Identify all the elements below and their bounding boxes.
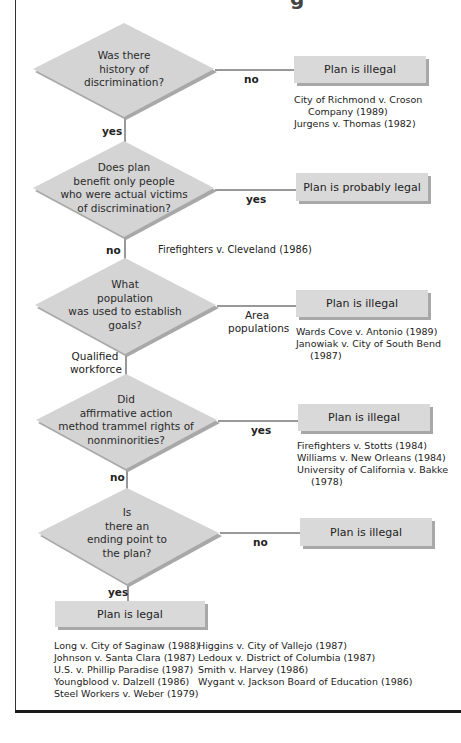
branch-label-q2-down: no — [106, 244, 121, 256]
case-citation: Janowiak v. City of South Bend — [296, 338, 441, 350]
branch-label-line: populations — [228, 322, 286, 335]
result-box-q2: Plan is probably legal — [296, 173, 428, 201]
case-citation: Firefighters v. Stotts (1984) — [297, 440, 448, 452]
decision-q2-text: Does plan benefit only people who were a… — [54, 161, 194, 215]
branch-label-line: Qualified — [70, 350, 120, 363]
decision-q5-text: Is there an ending point to the plan? — [67, 506, 187, 560]
branch-label-line: workforce — [70, 363, 120, 376]
decision-line: method trammel rights of — [56, 420, 196, 434]
result-box-q3: Plan is illegal — [296, 290, 428, 317]
decision-line: benefit only people — [54, 175, 194, 189]
branch-label-q3-down: Qualified workforce — [70, 350, 120, 376]
decision-line: the plan? — [67, 547, 187, 561]
branch-label-q2-right: yes — [246, 193, 266, 205]
case-list-q1: City of Richmond v. Croson Company (1989… — [294, 94, 422, 130]
branch-label-q1-right: no — [244, 73, 259, 85]
branch-label-q5-down: yes — [108, 586, 128, 598]
case-citation: U.S. v. Phillip Paradise (1987) — [54, 664, 200, 676]
decision-line: was used to establish — [65, 305, 185, 319]
decision-line: What — [65, 278, 185, 292]
case-citation: Wygant v. Jackson Board of Education (19… — [198, 676, 413, 688]
case-citation: Firefighters v. Cleveland (1986) — [158, 244, 312, 256]
decision-line: population — [65, 292, 185, 306]
case-citation: University of California v. Bakke — [297, 464, 448, 476]
branch-label-q4-down: no — [110, 471, 125, 483]
decision-line: of discrimination? — [54, 202, 194, 216]
case-list-final-right: Higgins v. City of Vallejo (1987) Ledoux… — [198, 640, 413, 688]
case-citation: Wards Cove v. Antonio (1989) — [296, 326, 441, 338]
case-citation: (1978) — [297, 476, 448, 488]
result-box-q1: Plan is illegal — [294, 56, 426, 83]
decision-line: discrimination? — [64, 76, 184, 90]
decision-line: Did — [56, 393, 196, 407]
decision-line: nonminorities? — [56, 434, 196, 448]
case-citation: Steel Workers v. Weber (1979) — [54, 688, 200, 700]
decision-line: who were actual victims — [54, 188, 194, 202]
case-citation: Long v. City of Saginaw (1988) — [54, 640, 200, 652]
case-list-q4: Firefighters v. Stotts (1984) Williams v… — [297, 440, 448, 488]
decision-q3-text: What population was used to establish go… — [65, 278, 185, 332]
case-citation: Ledoux v. District of Columbia (1987) — [198, 652, 413, 664]
case-citation: Johnson v. Santa Clara (1987) — [54, 652, 200, 664]
decision-line: history of — [64, 63, 184, 77]
decision-q1-text: Was there history of discrimination? — [64, 49, 184, 90]
case-citation: City of Richmond v. Croson — [294, 94, 422, 106]
branch-label-q3-right: Area populations — [228, 309, 286, 335]
result-box-q4: Plan is illegal — [298, 404, 430, 431]
decision-line: there an — [67, 520, 187, 534]
decision-line: affirmative action — [56, 407, 196, 421]
case-citation: Company (1989) — [294, 106, 422, 118]
decision-line: Is — [67, 506, 187, 520]
decision-line: ending point to — [67, 533, 187, 547]
case-citation: (1987) — [296, 350, 441, 362]
branch-label-q1-down: yes — [102, 125, 122, 137]
case-list-q2: Firefighters v. Cleveland (1986) — [158, 244, 312, 256]
decision-line: Was there — [64, 49, 184, 63]
result-box-final: Plan is legal — [55, 601, 205, 627]
case-citation: Williams v. New Orleans (1984) — [297, 452, 448, 464]
case-citation: Higgins v. City of Vallejo (1987) — [198, 640, 413, 652]
case-list-q3: Wards Cove v. Antonio (1989) Janowiak v.… — [296, 326, 441, 362]
branch-label-q5-right: no — [253, 536, 268, 548]
case-citation: Youngblood v. Dalzell (1986) — [54, 676, 200, 688]
case-citation: Smith v. Harvey (1986) — [198, 664, 413, 676]
result-box-q5: Plan is illegal — [300, 518, 432, 546]
title-fragment: g — [290, 0, 304, 10]
branch-label-line: Area — [228, 309, 286, 322]
branch-label-q4-right: yes — [251, 424, 271, 436]
decision-line: Does plan — [54, 161, 194, 175]
case-citation: Jurgens v. Thomas (1982) — [294, 118, 422, 130]
decision-line: goals? — [65, 319, 185, 333]
decision-q4-text: Did affirmative action method trammel ri… — [56, 393, 196, 447]
case-list-final-left: Long v. City of Saginaw (1988) Johnson v… — [54, 640, 200, 700]
